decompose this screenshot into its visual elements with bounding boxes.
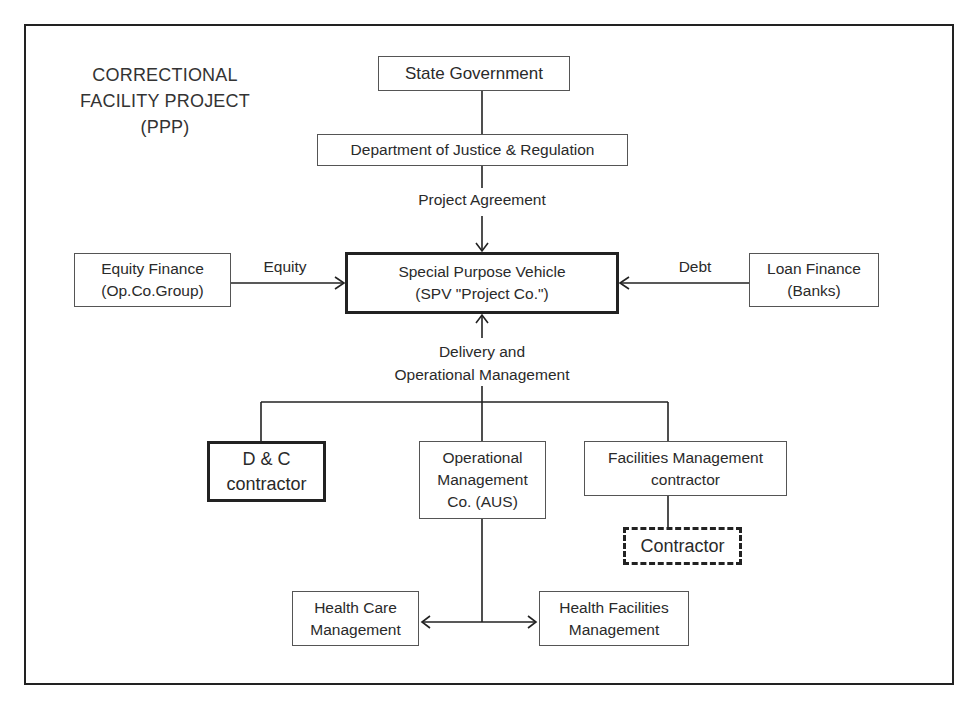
node-health-facilities-management: Health Facilities Management [539,591,689,646]
edge-label-equity: Equity [250,256,320,278]
node-facilities-management: Facilities Management contractor [584,441,787,496]
node-label: Loan Finance [767,258,861,280]
node-state-government: State Government [378,56,570,91]
node-label: Management [569,619,659,641]
node-label: Contractor [640,535,724,557]
node-equity-finance: Equity Finance (Op.Co.Group) [74,253,231,307]
node-department-of-justice: Department of Justice & Regulation [317,134,628,166]
node-health-care-management: Health Care Management [292,591,419,646]
title-line-2: FACILITY PROJECT [60,88,270,114]
edge-label-project-agreement: Project Agreement [382,189,582,211]
node-label: Facilities Management [608,447,763,469]
node-spv: Special Purpose Vehicle (SPV "Project Co… [345,252,619,314]
node-label: Special Purpose Vehicle [398,261,565,283]
node-label: Department of Justice & Regulation [351,139,595,161]
delivery-line-2: Operational Management [372,363,592,386]
node-label: Health Care [314,597,397,619]
node-label: D & C [242,447,290,472]
node-dc-contractor: D & C contractor [207,441,326,502]
node-operational-management: Operational Management Co. (AUS) [419,441,546,519]
node-label: (Op.Co.Group) [101,280,204,302]
node-label: contractor [651,469,720,491]
node-label: Management [310,619,400,641]
node-label: State Government [405,63,543,85]
node-label: Equity Finance [101,258,204,280]
node-label: contractor [226,472,306,497]
edge-label-delivery: Delivery and Operational Management [372,340,592,386]
node-loan-finance: Loan Finance (Banks) [749,253,879,307]
node-label: (SPV "Project Co.") [415,283,548,305]
node-contractor: Contractor [623,527,742,565]
node-label: Management [437,469,527,491]
diagram-title: CORRECTIONAL FACILITY PROJECT (PPP) [60,62,270,140]
edge-label-debt: Debt [665,256,725,278]
node-label: Operational [442,447,522,469]
delivery-line-1: Delivery and [372,340,592,363]
node-label: Health Facilities [559,597,668,619]
title-line-1: CORRECTIONAL [60,62,270,88]
node-label: Co. (AUS) [447,491,518,513]
title-line-3: (PPP) [60,114,270,140]
node-label: (Banks) [787,280,840,302]
